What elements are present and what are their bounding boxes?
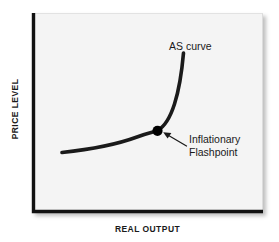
annotation-arrow (163, 132, 186, 146)
flashpoint-marker (152, 126, 162, 136)
aggregate-supply-chart: AS curve Inflationary Flashpoint PRICE L… (0, 0, 279, 242)
flashpoint-annotation: Inflationary Flashpoint (189, 133, 240, 158)
flashpoint-annotation-line2: Flashpoint (189, 146, 240, 159)
y-axis-title: PRICE LEVEL (10, 69, 20, 149)
x-axis-title: REAL OUTPUT (32, 224, 263, 234)
axis-lines (34, 13, 264, 212)
as-curve (62, 53, 184, 153)
flashpoint-annotation-line1: Inflationary (189, 133, 240, 146)
as-curve-label: AS curve (169, 40, 212, 53)
plot-graphics (0, 0, 279, 242)
